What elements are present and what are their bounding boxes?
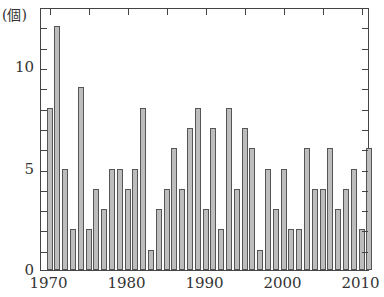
bar-2003 [304,148,310,270]
bar-1993 [226,108,232,270]
bar-1975 [86,229,92,270]
y-tick [41,69,47,70]
bar-1986 [171,148,177,270]
bar-1988 [187,128,193,270]
x-tick-label: 1990 [180,274,230,292]
x-tick [245,9,246,15]
y-tick-label: 10 [4,58,34,76]
bar-1999 [273,209,279,270]
bar-1981 [132,169,138,271]
y-tick [362,150,368,151]
bar-2005 [320,189,326,270]
y-tick [362,211,368,212]
y-tick [362,69,368,70]
y-tick [362,252,368,253]
bar-1984 [156,209,162,270]
bar-1972 [62,169,68,271]
bar-1980 [125,189,131,270]
bar-1982 [140,108,146,270]
plot-area [40,8,369,271]
bar-2000 [281,169,287,271]
y-tick [41,171,47,172]
bar-1997 [257,250,263,270]
x-tick [50,9,51,15]
x-tick [167,9,168,15]
x-tick [206,9,207,15]
y-tick [362,28,368,29]
bar-1995 [242,128,248,270]
x-tick-label: 1970 [24,274,74,292]
y-tick [41,89,47,90]
y-tick [41,28,47,29]
x-tick-label: 2010 [336,274,384,292]
bar-1989 [195,108,201,270]
x-tick [362,9,363,15]
x-tick-label: 2000 [258,274,308,292]
x-tick [128,9,129,15]
y-tick [41,110,47,111]
y-tick [362,231,368,232]
y-tick [362,49,368,50]
bar-1987 [179,189,185,270]
bar-1971 [54,26,60,270]
bar-1991 [210,128,216,270]
y-tick [362,171,368,172]
y-tick [41,211,47,212]
bar-2008 [343,189,349,270]
y-tick [362,191,368,192]
bar-1994 [234,189,240,270]
y-tick [362,89,368,90]
y-tick [41,191,47,192]
y-tick-label: 5 [4,160,34,178]
y-tick [362,130,368,131]
bar-2009 [351,169,357,271]
bar-1992 [218,229,224,270]
bar-2007 [335,209,341,270]
bar-1974 [78,87,84,270]
bar-1978 [109,169,115,271]
y-tick [41,130,47,131]
bar-2001 [288,229,294,270]
bar-2006 [327,148,333,270]
bar-1977 [101,209,107,270]
y-tick [362,110,368,111]
x-tick [323,9,324,15]
bar-1998 [265,169,271,271]
y-tick [41,252,47,253]
y-tick [41,49,47,50]
x-tick-label: 1980 [102,274,152,292]
y-tick [41,231,47,232]
y-tick [41,150,47,151]
bar-2002 [296,229,302,270]
bar-1979 [117,169,123,271]
bar-1973 [70,229,76,270]
bar-1996 [249,148,255,270]
bar-1976 [93,189,99,270]
x-tick [89,9,90,15]
bar-1985 [164,189,170,270]
bar-1970 [47,108,53,270]
bar-1983 [148,250,154,270]
bar-2004 [312,189,318,270]
x-tick [284,9,285,15]
y-axis-unit-label: (個) [2,4,27,24]
bar-2010 [359,229,365,270]
bar-1990 [203,209,209,270]
